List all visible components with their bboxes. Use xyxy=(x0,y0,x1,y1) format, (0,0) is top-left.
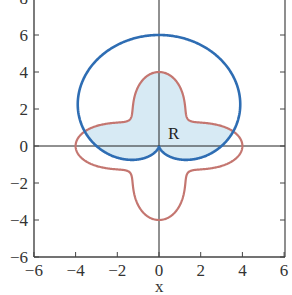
x-tick-label: 2 xyxy=(196,261,205,280)
x-tick-label: −4 xyxy=(67,261,86,280)
x-tick-label: 4 xyxy=(238,261,247,280)
y-tick-label: −6 xyxy=(10,248,28,267)
x-axis-label: x xyxy=(155,277,164,295)
y-tick-label: 2 xyxy=(20,100,29,119)
y-tick-label: 6 xyxy=(20,26,29,45)
y-tick-label: 8 xyxy=(20,0,29,8)
y-tick-label: −2 xyxy=(10,174,28,193)
region-label: R xyxy=(168,124,180,143)
plot-area xyxy=(34,0,285,257)
x-tick-label: 6 xyxy=(280,261,289,280)
y-tick-label: 4 xyxy=(20,63,29,82)
y-tick-label: −4 xyxy=(10,211,29,230)
polar-region-plot: −6−4−20246−6−4−202468 R x xyxy=(0,0,292,295)
y-tick-label: 0 xyxy=(20,137,29,156)
x-tick-label: −2 xyxy=(108,261,126,280)
